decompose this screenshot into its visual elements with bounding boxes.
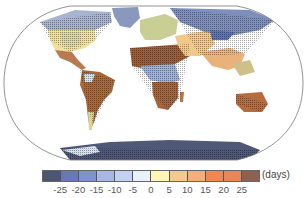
- colorbar-bin: [97, 171, 115, 181]
- europe: [140, 14, 178, 40]
- colorbar-bin: [151, 171, 169, 181]
- colorbar-bin: [206, 171, 224, 181]
- colorbar-ticks: -25 -20 -15 -10 -5 0 5 10 15 20 25: [42, 184, 260, 196]
- colorbar-tick-label: 25: [237, 184, 248, 195]
- colorbar-tick-label: 10: [182, 184, 193, 195]
- colorbar-tick-label: -5: [129, 184, 137, 195]
- colorbar-tick-label: 0: [148, 184, 153, 195]
- colorbar-tick-label: 15: [200, 184, 211, 195]
- world-map: [0, 0, 307, 166]
- colorbar-tick-label: -15: [90, 184, 104, 195]
- colorbar-bin: [224, 171, 242, 181]
- colorbar-bin: [115, 171, 133, 181]
- colorbar-tick-label: -25: [53, 184, 67, 195]
- colorbar-tick-label: 20: [218, 184, 229, 195]
- mexico: [55, 50, 86, 70]
- colorbar-tick-label: 5: [167, 184, 172, 195]
- colorbar-bin: [43, 171, 61, 181]
- colorbar-bin: [188, 171, 206, 181]
- colorbar-tick-label: -20: [71, 184, 85, 195]
- colorbar-bin: [133, 171, 151, 181]
- colorbar-bin: [61, 171, 79, 181]
- colorbar-bin: [242, 171, 259, 181]
- colorbar-bin: [79, 171, 97, 181]
- colorbar-units-label: (days): [262, 169, 290, 180]
- colorbar-bin: [170, 171, 188, 181]
- colorbar-tick-label: -10: [108, 184, 122, 195]
- greenland: [112, 7, 140, 28]
- colorbar: [42, 170, 260, 182]
